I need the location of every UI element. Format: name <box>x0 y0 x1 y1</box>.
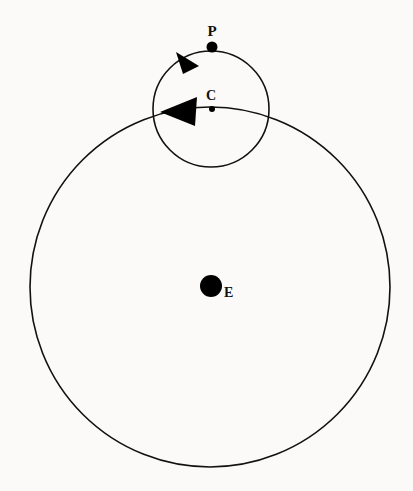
planet-point-dot <box>207 42 218 53</box>
diagram-canvas: P C E <box>0 0 413 491</box>
epicycle-center-label: C <box>206 88 216 103</box>
diagram-background <box>0 0 413 491</box>
planet-point-label: P <box>207 23 216 39</box>
earth-dot <box>200 275 222 297</box>
epicycle-center-dot <box>209 106 215 112</box>
epicycle-diagram: P C E <box>0 0 413 491</box>
earth-label: E <box>224 285 233 300</box>
